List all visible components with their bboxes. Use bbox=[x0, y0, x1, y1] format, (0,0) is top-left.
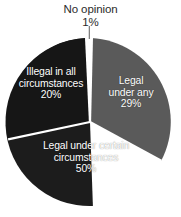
pie-chart: No opinion 1% Illegal in all circumstanc… bbox=[0, 0, 181, 217]
pie-slice-legal-under-any bbox=[90, 38, 171, 161]
pie-chart-graphic bbox=[0, 0, 181, 217]
